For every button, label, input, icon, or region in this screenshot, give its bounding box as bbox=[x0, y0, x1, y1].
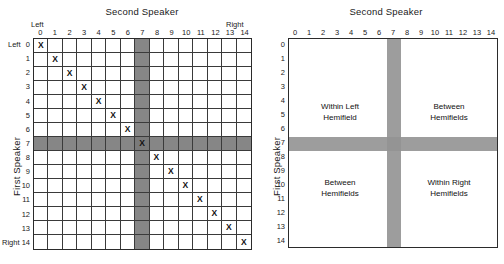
matrix-cell bbox=[237, 67, 251, 81]
quadrant-row-tick: 9 bbox=[274, 164, 285, 178]
matrix-cell bbox=[179, 235, 193, 249]
matrix-cell-mark: X bbox=[110, 111, 116, 120]
matrix-cell bbox=[193, 221, 207, 235]
matrix-cell bbox=[63, 151, 77, 165]
matrix-cell bbox=[222, 193, 236, 207]
matrix-cell bbox=[92, 151, 106, 165]
quadrant-label-bottom-left-line1: Between bbox=[295, 177, 385, 188]
matrix-cell bbox=[150, 123, 164, 137]
matrix-cell bbox=[237, 109, 251, 123]
matrix-cell bbox=[135, 123, 149, 137]
matrix-cell bbox=[121, 53, 135, 67]
matrix-cell bbox=[63, 39, 77, 53]
matrix-cell bbox=[77, 207, 91, 221]
matrix-cell bbox=[208, 137, 222, 151]
matrix-cell bbox=[193, 137, 207, 151]
matrix-cell bbox=[135, 207, 149, 221]
matrix-cell bbox=[63, 109, 77, 123]
matrix-cell bbox=[179, 123, 193, 137]
matrix-cell bbox=[164, 95, 178, 109]
matrix-cell bbox=[48, 151, 62, 165]
matrix-cell bbox=[106, 151, 120, 165]
matrix-cell bbox=[208, 81, 222, 95]
matrix-cell bbox=[164, 123, 178, 137]
matrix-cell bbox=[208, 193, 222, 207]
matrix-cell bbox=[179, 95, 193, 109]
matrix-cell-mark: X bbox=[125, 125, 131, 134]
matrix-cell bbox=[121, 193, 135, 207]
matrix-cell bbox=[34, 179, 48, 193]
matrix-cell bbox=[34, 123, 48, 137]
matrix-cell bbox=[63, 137, 77, 151]
matrix-cell bbox=[63, 95, 77, 109]
matrix-cell bbox=[222, 109, 236, 123]
matrix-cell-mark: X bbox=[197, 195, 203, 204]
matrix-cell: X bbox=[121, 123, 135, 137]
quadrant-row-tick-labels: 0 1 2 3 4 5 6 7 8 9 10 11 12 13 14 bbox=[274, 38, 285, 248]
quadrant-col-tick: 13 bbox=[470, 28, 484, 37]
matrix-cell bbox=[179, 151, 193, 165]
matrix-cell bbox=[106, 179, 120, 193]
quadrant-label-top-right-line1: Between bbox=[403, 101, 495, 112]
matrix-cell bbox=[164, 179, 178, 193]
matrix-cell bbox=[179, 39, 193, 53]
matrix-cell bbox=[179, 207, 193, 221]
matrix-cell bbox=[121, 109, 135, 123]
matrix-cell bbox=[106, 81, 120, 95]
matrix-cell bbox=[63, 53, 77, 67]
matrix-col-tick: 13 bbox=[223, 28, 238, 37]
matrix-cell bbox=[77, 165, 91, 179]
matrix-cell bbox=[63, 165, 77, 179]
matrix-cell bbox=[34, 137, 48, 151]
matrix-cell bbox=[121, 39, 135, 53]
matrix-col-tick: 1 bbox=[48, 28, 63, 37]
matrix-cell-mark: X bbox=[183, 181, 189, 190]
quadrant-row-tick: 6 bbox=[274, 122, 285, 136]
matrix-cell bbox=[63, 193, 77, 207]
quadrant-col-tick: 10 bbox=[428, 28, 442, 37]
matrix-cell bbox=[150, 109, 164, 123]
matrix-cell bbox=[208, 39, 222, 53]
matrix-cell bbox=[193, 95, 207, 109]
matrix-cell bbox=[222, 179, 236, 193]
matrix-cell bbox=[135, 151, 149, 165]
matrix-cell bbox=[77, 179, 91, 193]
matrix-cell bbox=[164, 221, 178, 235]
matrix-cell bbox=[237, 95, 251, 109]
quadrant-col-tick: 8 bbox=[400, 28, 414, 37]
quadrant-label-bottom-right-line2: Hemifields bbox=[403, 188, 495, 199]
matrix-cell bbox=[48, 123, 62, 137]
matrix-cell bbox=[164, 235, 178, 249]
matrix-cell: X bbox=[208, 207, 222, 221]
quadrant-midline-intersection bbox=[387, 137, 401, 151]
matrix-cell bbox=[106, 235, 120, 249]
matrix-row-tick-labels: 0 1 2 3 4 5 6 7 8 9 10 11 12 13 14 bbox=[19, 38, 30, 250]
matrix-cell bbox=[135, 67, 149, 81]
matrix-col-tick: 3 bbox=[77, 28, 92, 37]
matrix-cell bbox=[77, 193, 91, 207]
matrix-cell bbox=[179, 165, 193, 179]
matrix-cell bbox=[48, 95, 62, 109]
figure-container: Second Speaker First Speaker Left Right … bbox=[0, 0, 504, 264]
matrix-row-tick: 6 bbox=[19, 123, 30, 137]
matrix-cell bbox=[222, 235, 236, 249]
matrix-cell bbox=[179, 221, 193, 235]
matrix-cell: X bbox=[92, 95, 106, 109]
matrix-cell bbox=[237, 53, 251, 67]
quadrant-row-tick: 5 bbox=[274, 108, 285, 122]
quadrant-label-bottom-right: Within Right Hemifields bbox=[403, 177, 495, 199]
matrix-cell bbox=[77, 39, 91, 53]
matrix-cell bbox=[48, 137, 62, 151]
matrix-cell bbox=[135, 95, 149, 109]
matrix-cell bbox=[121, 137, 135, 151]
quadrant-label-bottom-left: Between Hemifields bbox=[295, 177, 385, 199]
matrix-cell bbox=[135, 193, 149, 207]
matrix-col-tick: 7 bbox=[135, 28, 150, 37]
quadrant-col-tick: 7 bbox=[386, 28, 400, 37]
matrix-cell bbox=[121, 221, 135, 235]
matrix-cell bbox=[135, 53, 149, 67]
matrix-cell bbox=[208, 165, 222, 179]
matrix-column-tick-labels: 0 1 2 3 4 5 6 7 8 9 10 11 12 13 14 bbox=[33, 28, 252, 37]
matrix-cell-mark: X bbox=[38, 41, 44, 50]
matrix-row-tick: 5 bbox=[19, 109, 30, 123]
